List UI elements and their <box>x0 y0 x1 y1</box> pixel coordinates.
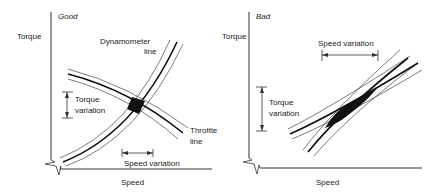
dynamometer-line-label-2: line <box>144 47 157 56</box>
speed-variation-label: Speed variation <box>124 159 180 168</box>
throttle-line-label-2: line <box>190 137 203 146</box>
arrow-left-icon <box>122 151 128 155</box>
torque-variation-label-2: variation <box>75 106 105 115</box>
arrow-up-icon <box>65 92 69 98</box>
speed-variation-label: Speed variation <box>318 39 374 48</box>
throttle-line-upper-bound <box>288 56 410 129</box>
x-axis-label: Speed <box>121 178 144 187</box>
throttle-line-label: Throttle <box>190 126 218 135</box>
y-axis-label: Torque <box>17 32 42 41</box>
arrow-left-icon <box>322 53 328 57</box>
diagram-canvas: Good Torque Speed Dynamometer line Throt… <box>0 0 441 196</box>
axis-break-icon <box>45 160 61 175</box>
panel-title: Bad <box>256 12 271 21</box>
torque-variation-label-2: variation <box>269 109 299 118</box>
dynamometer-line-lower-bound <box>314 66 414 156</box>
dynamometer-line-upper-bound <box>303 50 400 150</box>
panel-title: Good <box>58 12 78 21</box>
axis-break-icon <box>243 158 260 174</box>
torque-variation-label: Torque <box>269 98 294 107</box>
y-axis-label: Torque <box>222 32 247 41</box>
x-axis-label: Speed <box>316 178 339 187</box>
arrow-right-icon <box>372 53 378 57</box>
arrow-down-icon <box>65 112 69 118</box>
torque-variation-label: Torque <box>75 95 100 104</box>
arrow-right-icon <box>147 151 153 155</box>
dynamometer-line-label: Dynamometer <box>100 37 151 46</box>
arrow-up-icon <box>260 87 264 93</box>
throttle-line <box>290 63 418 134</box>
dynamometer-line-upper-bound <box>66 44 183 166</box>
arrow-down-icon <box>260 125 264 131</box>
panel-good: Good Torque Speed Dynamometer line Throt… <box>17 12 218 187</box>
panel-bad: Bad Torque Speed Torque variation Speed … <box>222 12 422 187</box>
